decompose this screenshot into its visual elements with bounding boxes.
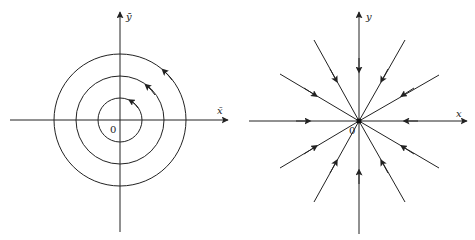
center-figure xyxy=(10,12,228,232)
y-label: y xyxy=(365,11,372,22)
x-bar-label: x̄ xyxy=(217,105,223,116)
orbit-middle-arrow-icon xyxy=(147,86,155,95)
y-bar-label: ȳ xyxy=(125,11,132,22)
x-label: x xyxy=(456,108,462,119)
orbit-outer-arrow-icon xyxy=(164,71,172,80)
origin-label-left: 0 xyxy=(110,124,116,135)
phase-portraits: x̄ ȳ 0 x y 0 xyxy=(0,0,475,240)
orbit-inner-arrow-icon xyxy=(131,101,138,108)
equilibrium-point xyxy=(357,119,362,124)
origin-label-right: 0 xyxy=(349,125,355,136)
